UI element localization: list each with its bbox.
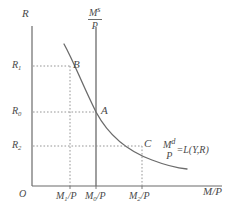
money-demand-numerator-sup: d: [171, 137, 175, 146]
origin-label: O: [19, 189, 26, 199]
y-tick-r1-sub: 1: [18, 64, 21, 71]
money-demand-equation-tail: =L(Y,R): [177, 144, 209, 155]
x-tick-label-m2: M2/P: [129, 191, 150, 202]
money-supply-label: Ms P: [88, 6, 102, 31]
money-demand-denominator: P: [166, 151, 172, 162]
x-tick-label-m1: M1/P: [56, 191, 77, 202]
y-tick-label-r2: R2: [12, 140, 21, 151]
x-tick-m2-suffix: /P: [141, 190, 150, 201]
point-label-c: C: [144, 138, 151, 149]
money-demand-numerator: Md: [163, 138, 176, 151]
point-label-a: A: [101, 105, 108, 116]
x-tick-label-m0: M0/P: [85, 191, 106, 202]
money-supply-numerator: Ms: [88, 6, 102, 19]
money-supply-denominator: P: [91, 21, 99, 32]
x-tick-m0-suffix: /P: [97, 190, 106, 201]
y-tick-label-r0: R0: [12, 106, 21, 117]
y-tick-r2-sub: 2: [18, 144, 21, 151]
point-label-b: B: [73, 59, 80, 70]
money-demand-label: Md P =L(Y,R): [163, 138, 209, 161]
money-supply-numerator-sup: s: [97, 5, 100, 14]
money-demand-fraction: Md P: [163, 138, 176, 161]
x-tick-m1-suffix: /P: [68, 190, 77, 201]
y-tick-label-r1: R1: [12, 60, 21, 71]
x-axis-title: M/P: [203, 186, 222, 197]
money-market-diagram: R M/P O R1 R0 R2 M1/P M0/P M2/P Ms P Md …: [0, 0, 244, 217]
y-tick-r0-sub: 0: [18, 110, 21, 117]
y-axis-title: R: [22, 8, 29, 19]
